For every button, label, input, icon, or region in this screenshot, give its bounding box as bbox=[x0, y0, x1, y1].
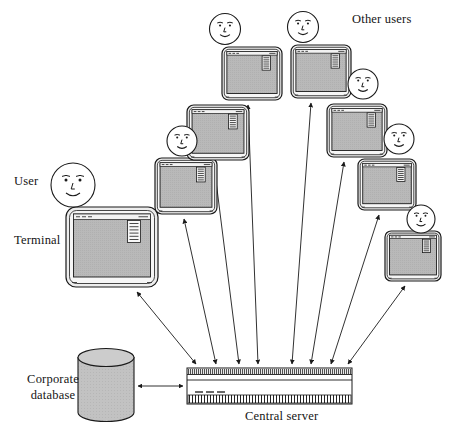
connection-terminal-8-to-server bbox=[348, 286, 405, 364]
face-user bbox=[51, 163, 95, 207]
diagram-canvas: UserTerminalOther usersCorporate databas… bbox=[0, 0, 451, 446]
label-terminal: Terminal bbox=[14, 233, 61, 249]
label-other-users: Other users bbox=[352, 12, 411, 28]
terminal-6 bbox=[327, 104, 387, 157]
connection-terminal-3-to-server bbox=[214, 165, 239, 364]
connection-terminal-5-to-server bbox=[292, 103, 311, 364]
connection-terminal-6-to-server bbox=[311, 162, 344, 364]
connection-terminal-user-to-server bbox=[137, 292, 196, 364]
label-central-server: Central server bbox=[245, 409, 318, 425]
face-2 bbox=[167, 126, 197, 156]
central-server-shape bbox=[187, 368, 352, 404]
label-corporate-database: Corporate database bbox=[14, 372, 92, 403]
terminal-7 bbox=[358, 159, 416, 210]
face-7 bbox=[407, 205, 435, 233]
terminal-user bbox=[66, 207, 158, 287]
terminal-2 bbox=[155, 158, 217, 214]
terminal-3 bbox=[187, 105, 249, 160]
face-4 bbox=[288, 12, 319, 43]
face-3 bbox=[210, 14, 241, 45]
face-5 bbox=[348, 69, 378, 99]
terminal-8 bbox=[385, 231, 441, 281]
face-6 bbox=[384, 124, 414, 154]
terminal-5 bbox=[291, 45, 351, 98]
connection-terminal-2-to-server bbox=[184, 219, 216, 364]
connection-terminal-7-to-server bbox=[331, 215, 379, 364]
label-user: User bbox=[14, 174, 38, 190]
terminal-4 bbox=[222, 47, 282, 100]
